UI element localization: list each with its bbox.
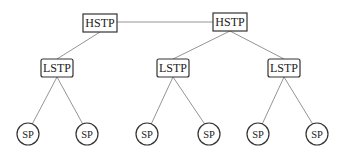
- lstp-node[interactable]: LSTP: [268, 59, 300, 77]
- sp-node[interactable]: SP: [76, 123, 98, 145]
- lstp-node[interactable]: LSTP: [41, 59, 73, 77]
- lstp-uplink: [230, 31, 284, 59]
- sp-node[interactable]: SP: [136, 123, 158, 145]
- lstp-label: LSTP: [159, 61, 187, 75]
- hstp-label: HSTP: [85, 16, 115, 30]
- lstp-label: LSTP: [43, 61, 71, 75]
- lstp-label: LSTP: [270, 61, 298, 75]
- sp-node[interactable]: SP: [306, 123, 328, 145]
- sp-uplink: [151, 77, 173, 125]
- lstp-uplink: [173, 31, 230, 59]
- sp-label: SP: [81, 129, 93, 140]
- stp-hierarchy-diagram: HSTPHSTPLSTPLSTPLSTPSPSPSPSPSPSP: [0, 0, 339, 161]
- sp-label: SP: [203, 129, 215, 140]
- lstp-uplink: [57, 32, 100, 59]
- sp-label: SP: [141, 129, 153, 140]
- sp-uplink: [57, 77, 83, 125]
- sp-label: SP: [252, 129, 264, 140]
- sp-uplink: [262, 77, 284, 125]
- sp-node[interactable]: SP: [17, 123, 39, 145]
- sp-label: SP: [311, 129, 323, 140]
- lstp-node[interactable]: LSTP: [157, 59, 189, 77]
- hstp-node[interactable]: HSTP: [83, 14, 117, 32]
- sp-label: SP: [22, 129, 34, 140]
- hstp-node[interactable]: HSTP: [213, 13, 247, 31]
- sp-node[interactable]: SP: [247, 123, 269, 145]
- sp-node[interactable]: SP: [198, 123, 220, 145]
- sp-uplink: [32, 77, 57, 125]
- hstp-label: HSTP: [215, 15, 245, 29]
- sp-uplink: [284, 77, 313, 125]
- sp-uplink: [173, 77, 205, 125]
